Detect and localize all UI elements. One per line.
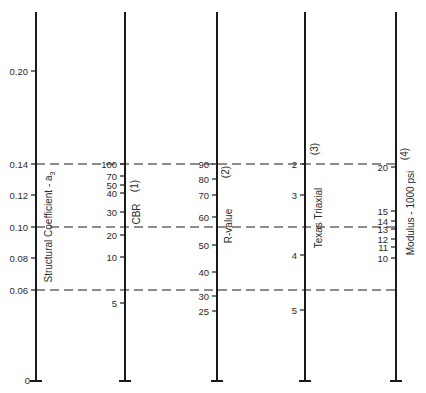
axis-cbr: 1007050403020105CBR(1) — [101, 12, 142, 381]
tick-label: 11 — [378, 242, 388, 253]
axis-title: CBR — [131, 203, 142, 224]
axis-structural-coefficient: 0.200.140.120.100.080.060Structural Coef… — [10, 12, 57, 386]
tick-label: 20 — [377, 162, 388, 173]
tick-label: 0.06 — [10, 285, 29, 296]
nomograph-chart: 0.200.140.120.100.080.060Structural Coef… — [0, 0, 426, 393]
tick-label: 5 — [292, 305, 297, 316]
tick-label: 3 — [292, 190, 297, 201]
tick-label: 10 — [106, 252, 117, 263]
tick-label: 60 — [198, 212, 209, 223]
axis-r-value: 9080706050403025R-value(2) — [198, 12, 234, 381]
axis-title: Modulus - 1000 psi — [405, 171, 416, 256]
axis-title: R-value — [223, 208, 234, 243]
tick-label: 0.08 — [10, 253, 29, 264]
axis-title: Texas Triaxial — [313, 188, 324, 249]
tick-label: 70 — [198, 190, 209, 201]
tick-label: 100 — [101, 159, 117, 170]
axes-group: 0.200.140.120.100.080.060Structural Coef… — [10, 12, 417, 386]
tick-label: 0.14 — [10, 159, 29, 170]
tick-label: 40 — [106, 188, 117, 199]
tick-label: 20 — [106, 230, 117, 241]
tick-label: 0 — [25, 375, 30, 386]
axis-number: (4) — [399, 148, 410, 160]
tick-label: 0.12 — [10, 190, 29, 201]
axis-texas-triaxial: 2345Texas Triaxial(3) — [292, 12, 324, 381]
axis-number: (2) — [220, 166, 231, 178]
tick-label: 40 — [198, 267, 209, 278]
tick-label: 4 — [292, 250, 297, 261]
tick-label: 30 — [198, 291, 209, 302]
axis-number: (1) — [129, 180, 140, 192]
axis-modulus: 20151413121110Modulus - 1000 psi(4) — [377, 12, 416, 381]
tick-label: 50 — [198, 240, 209, 251]
tick-label: 90 — [198, 159, 209, 170]
axis-number: (3) — [309, 143, 320, 155]
tick-label: 0.20 — [10, 66, 29, 77]
tick-label: 25 — [198, 306, 209, 317]
tick-label: 30 — [106, 207, 117, 218]
tick-label: 5 — [112, 298, 117, 309]
tick-label: 0.10 — [10, 222, 29, 233]
tick-label: 10 — [377, 253, 388, 264]
tick-label: 80 — [198, 174, 209, 185]
tick-label: 2 — [292, 159, 297, 170]
